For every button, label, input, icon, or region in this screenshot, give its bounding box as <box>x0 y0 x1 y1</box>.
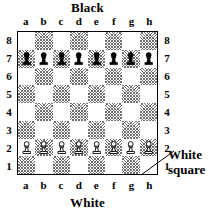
square-h3[interactable] <box>140 121 157 139</box>
square-b8[interactable] <box>35 32 52 50</box>
square-d1[interactable] <box>70 156 87 174</box>
rank-label-left-6: 6 <box>2 67 16 85</box>
rank-label-right-3: 3 <box>160 121 174 139</box>
square-f2[interactable] <box>105 139 122 157</box>
white-pawn <box>88 139 105 157</box>
rank-label-left-8: 8 <box>2 31 16 49</box>
square-c5[interactable] <box>53 85 70 103</box>
square-b1[interactable] <box>35 156 52 174</box>
square-c8[interactable] <box>53 32 70 50</box>
file-label-bottom-f: f <box>105 179 123 192</box>
square-c6[interactable] <box>53 68 70 86</box>
square-c7[interactable] <box>53 50 70 68</box>
file-label-top-f: f <box>105 15 123 28</box>
white-pawn <box>53 139 70 157</box>
file-label-bottom-c: c <box>52 179 70 192</box>
file-label-top-d: d <box>70 15 88 28</box>
file-label-top-e: e <box>88 15 106 28</box>
rank-label-left-1: 1 <box>2 157 16 175</box>
square-c4[interactable] <box>53 103 70 121</box>
square-e5[interactable] <box>88 85 105 103</box>
file-label-top-b: b <box>35 15 53 28</box>
square-f5[interactable] <box>105 85 122 103</box>
square-g1[interactable] <box>122 156 139 174</box>
square-a1[interactable] <box>18 156 35 174</box>
square-f7[interactable] <box>105 50 122 68</box>
square-c3[interactable] <box>53 121 70 139</box>
file-label-bottom-b: b <box>35 179 53 192</box>
square-g7[interactable] <box>122 50 139 68</box>
square-h5[interactable] <box>140 85 157 103</box>
square-f3[interactable] <box>105 121 122 139</box>
square-b5[interactable] <box>35 85 52 103</box>
file-label-top-a: a <box>17 15 35 28</box>
square-d2[interactable] <box>70 139 87 157</box>
rank-label-right-4: 4 <box>160 103 174 121</box>
square-g3[interactable] <box>122 121 139 139</box>
rank-label-left-4: 4 <box>2 103 16 121</box>
square-e7[interactable] <box>88 50 105 68</box>
square-d6[interactable] <box>70 68 87 86</box>
square-d7[interactable] <box>70 50 87 68</box>
square-f8[interactable] <box>105 32 122 50</box>
black-pawn <box>122 50 139 68</box>
black-pawn <box>35 50 52 68</box>
square-e2[interactable] <box>88 139 105 157</box>
square-a8[interactable] <box>18 32 35 50</box>
square-b3[interactable] <box>35 121 52 139</box>
square-g5[interactable] <box>122 85 139 103</box>
square-a5[interactable] <box>18 85 35 103</box>
file-label-bottom-d: d <box>70 179 88 192</box>
square-a3[interactable] <box>18 121 35 139</box>
square-b7[interactable] <box>35 50 52 68</box>
square-a4[interactable] <box>18 103 35 121</box>
annotation-line-2: square <box>168 162 219 177</box>
square-e3[interactable] <box>88 121 105 139</box>
black-pawn <box>70 50 87 68</box>
square-e8[interactable] <box>88 32 105 50</box>
square-b4[interactable] <box>35 103 52 121</box>
square-b6[interactable] <box>35 68 52 86</box>
square-f4[interactable] <box>105 103 122 121</box>
file-label-bottom-a: a <box>17 179 35 192</box>
rank-label-right-8: 8 <box>160 31 174 49</box>
file-label-top-g: g <box>123 15 141 28</box>
square-h8[interactable] <box>140 32 157 50</box>
black-pawn <box>105 50 122 68</box>
square-a2[interactable] <box>18 139 35 157</box>
square-h4[interactable] <box>140 103 157 121</box>
white-pawn <box>122 139 139 157</box>
square-b2[interactable] <box>35 139 52 157</box>
square-c1[interactable] <box>53 156 70 174</box>
white-pawn <box>105 139 122 157</box>
square-g2[interactable] <box>122 139 139 157</box>
side-label-black: Black <box>17 0 158 16</box>
square-e4[interactable] <box>88 103 105 121</box>
square-a6[interactable] <box>18 68 35 86</box>
square-g8[interactable] <box>122 32 139 50</box>
square-d4[interactable] <box>70 103 87 121</box>
square-g4[interactable] <box>122 103 139 121</box>
square-e6[interactable] <box>88 68 105 86</box>
square-c2[interactable] <box>53 139 70 157</box>
file-label-bottom-h: h <box>140 179 158 192</box>
square-f1[interactable] <box>105 156 122 174</box>
square-h6[interactable] <box>140 68 157 86</box>
white-pawn <box>18 139 35 157</box>
square-e1[interactable] <box>88 156 105 174</box>
white-pawn <box>70 139 87 157</box>
square-a7[interactable] <box>18 50 35 68</box>
file-labels-top: abcdefgh <box>17 15 158 28</box>
rank-labels-left: 87654321 <box>2 31 16 175</box>
square-d5[interactable] <box>70 85 87 103</box>
rank-label-left-7: 7 <box>2 49 16 67</box>
black-pawn <box>18 50 35 68</box>
square-h7[interactable] <box>140 50 157 68</box>
square-g6[interactable] <box>122 68 139 86</box>
square-d3[interactable] <box>70 121 87 139</box>
chessboard[interactable] <box>17 31 158 175</box>
rank-label-right-7: 7 <box>160 49 174 67</box>
black-pawn <box>53 50 70 68</box>
square-d8[interactable] <box>70 32 87 50</box>
square-f6[interactable] <box>105 68 122 86</box>
